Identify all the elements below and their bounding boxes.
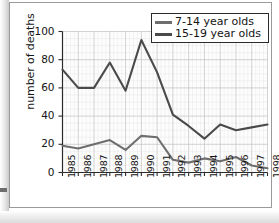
y-tick-40: 40 <box>27 110 55 120</box>
chart-legend: 7-14 year olds 15-19 year olds <box>151 13 269 43</box>
y-tick-60: 60 <box>27 82 55 92</box>
y-tick-20: 20 <box>27 138 55 148</box>
x-tick-1991: 1991 <box>161 154 172 177</box>
legend-label-15-19: 15-19 year olds <box>175 28 261 40</box>
x-tick-1994: 1994 <box>208 154 219 177</box>
x-tick-1992: 1992 <box>176 154 187 177</box>
y-tick-0: 0 <box>27 167 55 177</box>
x-tick-1986: 1986 <box>82 154 93 177</box>
legend-swatch-15-19 <box>155 33 172 36</box>
y-tick-80: 80 <box>27 54 55 64</box>
legend-swatch-7-14 <box>155 21 172 24</box>
x-tick-1996: 1996 <box>239 154 250 177</box>
x-tick-1995: 1995 <box>224 154 235 177</box>
legend-item-15-19: 15-19 year olds <box>155 28 265 40</box>
x-tick-1985: 1985 <box>66 154 77 177</box>
chart-page: number of deaths 100806040200 1985198619… <box>0 0 279 223</box>
x-tick-1997: 1997 <box>255 154 266 177</box>
x-tick-1987: 1987 <box>98 154 109 177</box>
x-tick-1993: 1993 <box>192 154 203 177</box>
y-tick-100: 100 <box>27 26 55 36</box>
x-tick-1988: 1988 <box>113 154 124 177</box>
x-tick-1990: 1990 <box>145 154 156 177</box>
x-tick-1989: 1989 <box>129 154 140 177</box>
x-tick-1998: 1998 <box>271 154 279 177</box>
